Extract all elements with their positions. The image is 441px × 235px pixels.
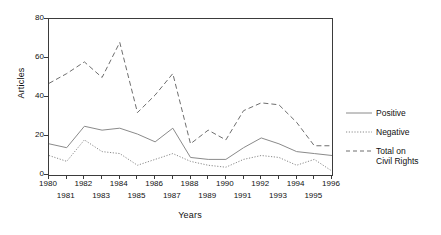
legend-item[interactable]: Negative xyxy=(346,127,441,137)
y-tick-mark xyxy=(44,96,48,97)
x-tick-label: 1980 xyxy=(31,179,65,188)
x-tick-label: 1982 xyxy=(66,179,100,188)
x-axis-title: Years xyxy=(150,210,230,220)
legend-item[interactable]: Positive xyxy=(346,108,441,118)
chart-figure: Articles 020406080 198019811982198319841… xyxy=(0,0,441,235)
x-tick-label: 1984 xyxy=(102,179,136,188)
x-tick-mark xyxy=(331,176,332,179)
plot-area xyxy=(48,18,333,176)
legend-line-swatch-dashed xyxy=(346,146,372,156)
x-tick-label: 1988 xyxy=(173,179,207,188)
legend-line-swatch-dotted xyxy=(346,127,372,137)
x-tick-mark xyxy=(296,176,297,179)
series-line-total-on-civil-rights xyxy=(49,42,332,145)
legend-item-label: Negative xyxy=(376,127,410,137)
y-tick-mark xyxy=(44,174,48,175)
x-tick-label: 1991 xyxy=(226,191,260,200)
x-tick-label: 1990 xyxy=(208,179,242,188)
x-tick-label: 1987 xyxy=(155,191,189,200)
y-tick-label: 60 xyxy=(22,53,44,61)
y-tick-mark xyxy=(44,57,48,58)
x-tick-mark xyxy=(225,176,226,179)
legend-item-label: Total on Civil Rights xyxy=(376,146,419,166)
x-tick-mark xyxy=(260,176,261,179)
chart-legend: PositiveNegativeTotal on Civil Rights xyxy=(346,108,441,175)
legend-item-label: Positive xyxy=(376,108,406,118)
y-tick-label: 0 xyxy=(22,170,44,178)
series-canvas xyxy=(49,19,332,175)
x-tick-label: 1994 xyxy=(279,179,313,188)
series-line-negative xyxy=(49,140,332,171)
y-tick-label: 20 xyxy=(22,131,44,139)
x-tick-mark xyxy=(119,176,120,179)
y-axis-ticks: 020406080 xyxy=(18,0,44,235)
y-tick-mark xyxy=(44,135,48,136)
y-tick-label: 40 xyxy=(22,92,44,100)
x-tick-label: 1981 xyxy=(49,191,83,200)
x-tick-label: 1985 xyxy=(119,191,153,200)
x-tick-label: 1992 xyxy=(243,179,277,188)
x-tick-label: 1993 xyxy=(261,191,295,200)
legend-item[interactable]: Total on Civil Rights xyxy=(346,146,441,166)
y-tick-label: 80 xyxy=(22,14,44,22)
y-tick-mark xyxy=(44,18,48,19)
legend-line-swatch-solid xyxy=(346,108,372,118)
x-tick-label: 1983 xyxy=(84,191,118,200)
x-tick-label: 1989 xyxy=(190,191,224,200)
x-tick-mark xyxy=(83,176,84,179)
x-tick-label: 1995 xyxy=(296,191,330,200)
x-tick-label: 1996 xyxy=(314,179,348,188)
x-tick-mark xyxy=(190,176,191,179)
x-tick-label: 1986 xyxy=(137,179,171,188)
x-tick-mark xyxy=(48,176,49,179)
x-tick-mark xyxy=(154,176,155,179)
